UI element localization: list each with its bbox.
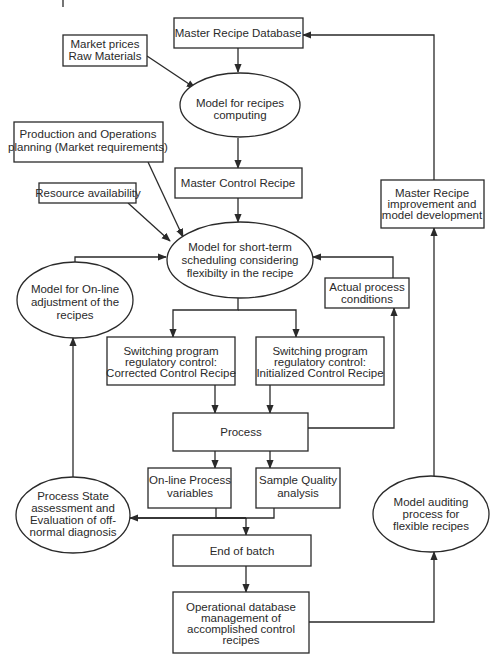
node-label: Master Control Recipe (181, 177, 295, 189)
node-label: Resource availability (35, 187, 141, 199)
edge-improvement-to-db (303, 35, 434, 180)
svg-text:Model for On-line: Model for On-line (31, 283, 119, 295)
svg-text:Market prices: Market prices (70, 38, 139, 50)
svg-text:analysis: analysis (277, 487, 319, 499)
node-label: Production and Operations (20, 128, 157, 140)
edge-merge-bracket (216, 508, 274, 518)
node-label: Sample Quality (259, 474, 337, 486)
svg-text:adjustment of the: adjustment of the (31, 296, 119, 308)
node-label: Raw Materials (69, 50, 142, 62)
node-model-auditing: Model auditing process for flexible reci… (373, 476, 489, 552)
svg-text:Actual process: Actual process (329, 281, 405, 293)
svg-text:planning (Market requirements): planning (Market requirements) (8, 141, 168, 153)
edge-scheduling-to-initialized (238, 310, 296, 337)
svg-text:Master Recipe Database: Master Recipe Database (175, 27, 302, 39)
edge-scheduling-to-corrected (173, 298, 238, 337)
svg-text:Raw Materials: Raw Materials (69, 50, 142, 62)
svg-text:conditions: conditions (341, 293, 393, 305)
svg-text:process for: process for (403, 508, 460, 520)
node-label: Initialized Control Recipe (256, 367, 383, 379)
recipe-flow-diagram: Master Recipe Database Market prices Raw… (0, 0, 500, 663)
node-end-of-batch: End of batch (173, 535, 311, 566)
node-label: analysis (277, 487, 319, 499)
node-label: conditions (341, 293, 393, 305)
node-short-term-scheduling: Model for short-term scheduling consider… (167, 222, 313, 298)
node-switching-initialized: Switching program regulatory control: In… (256, 337, 384, 385)
node-operational-database: Operational database management of accom… (173, 592, 309, 653)
node-label: Market prices (70, 38, 139, 50)
node-resource-availability: Resource availability (35, 183, 141, 203)
svg-text:Initialized Control Recipe: Initialized Control Recipe (256, 367, 383, 379)
svg-text:recipes: recipes (222, 634, 259, 646)
node-label: Model for recipes (196, 97, 284, 109)
node-switching-corrected: Switching program regulatory control: Co… (106, 337, 236, 385)
svg-text:Sample Quality: Sample Quality (259, 474, 337, 486)
svg-text:Evaluation of off-: Evaluation of off- (30, 514, 116, 526)
node-model-recipes-computing: Model for recipes computing (180, 73, 300, 137)
svg-text:recipes: recipes (56, 309, 93, 321)
node-master-control-recipe: Master Control Recipe (175, 168, 302, 198)
node-label: scheduling considering (182, 254, 299, 266)
node-recipe-improvement: Master Recipe improvement and model deve… (381, 180, 484, 228)
edge-operational-to-auditing (309, 552, 434, 622)
svg-text:flexibilty in the recipe: flexibilty in the recipe (187, 267, 294, 279)
node-label: Process (220, 426, 262, 438)
svg-text:normal diagnosis: normal diagnosis (30, 526, 117, 538)
node-actual-process-conditions: Actual process conditions (325, 278, 409, 308)
svg-text:On-line Process: On-line Process (149, 474, 231, 486)
svg-text:assessment and: assessment and (31, 502, 115, 514)
edge-conditions-to-scheduling (313, 257, 393, 278)
node-label: Master Recipe Database (175, 27, 302, 39)
svg-text:flexible recipes: flexible recipes (393, 520, 469, 532)
edge-market-to-computing (147, 56, 195, 88)
svg-text:Corrected Control Recipe: Corrected Control Recipe (106, 367, 236, 379)
node-label: recipes (56, 309, 93, 321)
node-label: process for (403, 508, 460, 520)
node-label: Model for short-term (188, 241, 292, 253)
svg-text:End of batch: End of batch (210, 545, 275, 557)
svg-text:scheduling considering: scheduling considering (182, 254, 299, 266)
node-label: Model auditing (394, 496, 469, 508)
svg-text:computing: computing (213, 109, 266, 121)
node-label: assessment and (31, 502, 115, 514)
svg-text:variables: variables (167, 487, 213, 499)
node-master-recipe-database: Master Recipe Database (174, 18, 303, 48)
node-online-process-variables: On-line Process variables (148, 468, 231, 508)
edge-resource-to-scheduling (128, 203, 170, 241)
node-label: model development (382, 209, 483, 221)
node-label: Model for On-line (31, 283, 119, 295)
svg-text:model development: model development (382, 209, 483, 221)
node-market-prices: Market prices Raw Materials (63, 35, 147, 66)
node-label: variables (167, 487, 213, 499)
node-label: End of batch (210, 545, 275, 557)
node-label: normal diagnosis (30, 526, 117, 538)
node-label: Actual process (329, 281, 405, 293)
svg-text:Model for recipes: Model for recipes (196, 97, 284, 109)
node-label: On-line Process (149, 474, 231, 486)
svg-text:Process: Process (220, 426, 262, 438)
node-label: adjustment of the (31, 296, 119, 308)
node-production-planning: Production and Operations planning (Mark… (8, 122, 168, 162)
node-label: planning (Market requirements) (8, 141, 168, 153)
svg-text:Model for short-term: Model for short-term (188, 241, 292, 253)
node-online-adjustment: Model for On-line adjustment of the reci… (17, 262, 133, 338)
node-sample-quality: Sample Quality analysis (256, 468, 340, 508)
node-label: recipes (222, 634, 259, 646)
node-label: Evaluation of off- (30, 514, 116, 526)
node-label: flexibilty in the recipe (187, 267, 294, 279)
node-process-state-assessment: Process State assessment and Evaluation … (16, 477, 130, 553)
svg-text:Model auditing: Model auditing (394, 496, 469, 508)
node-label: Corrected Control Recipe (106, 367, 236, 379)
svg-text:Process State: Process State (37, 490, 109, 502)
edge-adjustment-to-scheduling (75, 257, 166, 262)
svg-text:Master Control Recipe: Master Control Recipe (181, 177, 295, 189)
svg-text:Production and Operations: Production and Operations (20, 128, 157, 140)
node-label: Process State (37, 490, 109, 502)
svg-text:Resource availability: Resource availability (35, 187, 141, 199)
node-label: flexible recipes (393, 520, 469, 532)
node-process: Process (173, 413, 308, 451)
node-label: computing (213, 109, 266, 121)
